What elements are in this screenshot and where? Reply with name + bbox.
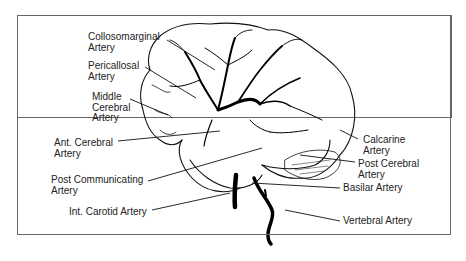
label-pericallosal-artery: Pericallosal Artery xyxy=(88,61,139,82)
label-line: Basilar Artery xyxy=(343,183,402,194)
label-line: Artery xyxy=(88,43,160,54)
label-calcarine-artery: Calcarine Artery xyxy=(363,135,405,156)
label-line: Middle xyxy=(92,92,130,103)
label-line: Post Cerebral xyxy=(358,159,419,170)
label-line: Artery xyxy=(358,170,419,181)
figure-bordered-box xyxy=(17,15,451,235)
label-line: Artery xyxy=(54,149,113,160)
label-line: Pericallosal xyxy=(88,61,139,72)
label-basilar-artery: Basilar Artery xyxy=(343,183,402,194)
label-line: Collosomarginal xyxy=(88,32,160,43)
label-line: Artery xyxy=(363,146,405,157)
label-vertebral-artery: Vertebral Artery xyxy=(343,216,412,227)
label-middle-cerebral-artery: Middle Cerebral Artery xyxy=(92,92,130,124)
label-ant-cerebral-artery: Ant. Cerebral Artery xyxy=(54,138,113,159)
label-post-communicating-artery: Post Communicating Artery xyxy=(51,175,143,196)
label-line: Vertebral Artery xyxy=(343,216,412,227)
label-line: Calcarine xyxy=(363,135,405,146)
label-line: Artery xyxy=(92,113,130,124)
label-collosomarginal-artery: Collosomarginal Artery xyxy=(88,32,160,53)
label-line: Artery xyxy=(51,186,143,197)
label-line: Int. Carotid Artery xyxy=(69,207,147,218)
label-int-carotid-artery: Int. Carotid Artery xyxy=(69,207,147,218)
label-line: Ant. Cerebral xyxy=(54,138,113,149)
label-line: Post Communicating xyxy=(51,175,143,186)
label-post-cerebral-artery: Post Cerebral Artery xyxy=(358,159,419,180)
label-line: Artery xyxy=(88,72,139,83)
